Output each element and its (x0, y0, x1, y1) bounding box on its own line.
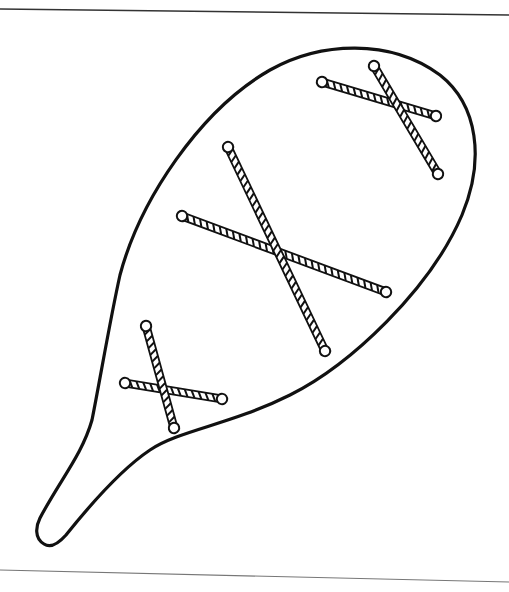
twisted-rope (140, 320, 181, 435)
twisted-rope (221, 140, 332, 358)
stitch-middle (175, 140, 392, 358)
illustration-canvas (0, 0, 509, 592)
paddle-illustration (0, 0, 509, 592)
stitch-top-right (316, 59, 446, 181)
top-border-line (0, 9, 509, 15)
twisted-rope (175, 209, 392, 298)
bottom-border-line (0, 570, 509, 582)
rope-stitches (119, 59, 445, 435)
twisted-rope (119, 377, 228, 405)
lacing-hole-icon (119, 377, 131, 389)
stitch-bottom-left (119, 320, 228, 435)
lacing-hole-icon (216, 393, 228, 405)
